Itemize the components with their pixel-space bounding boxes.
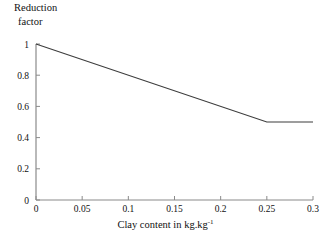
data-line-reduction-factor <box>36 44 313 122</box>
x-axis-tick-labels: 00.050.10.150.20.250.3 <box>34 204 320 214</box>
x-axis-tick-label: 0.15 <box>166 204 183 214</box>
y-axis-tick-label: 0.6 <box>17 102 29 112</box>
y-axis-tick-label: 1 <box>24 40 29 50</box>
chart-container: Reduction factor 00.050.10.150.20.250.3 … <box>0 0 331 239</box>
x-axis-tick-label: 0.25 <box>259 204 276 214</box>
x-axis-title: Clay content in kg.kg-1 <box>0 219 331 230</box>
x-axis-title-exponent: -1 <box>208 218 214 226</box>
x-axis-tick-label: 0.1 <box>122 204 134 214</box>
y-axis-tick-labels: 00.20.40.60.81 <box>17 40 29 206</box>
y-axis-tick-label: 0.2 <box>17 164 29 174</box>
x-axis-tick-label: 0 <box>34 204 39 214</box>
y-axis-tick-label: 0.4 <box>17 133 29 143</box>
plot-area: 00.050.10.150.20.250.3 00.20.40.60.81 <box>0 0 331 239</box>
y-axis-tick-label: 0.8 <box>17 71 29 81</box>
x-axis-tick-label: 0.05 <box>74 204 91 214</box>
x-axis-tick-label: 0.2 <box>215 204 227 214</box>
x-axis-title-text: Clay content in kg.kg <box>117 219 207 230</box>
data-series-group <box>36 44 313 122</box>
x-axis-tick-label: 0.3 <box>307 204 319 214</box>
y-axis-tick-label: 0 <box>24 196 29 206</box>
